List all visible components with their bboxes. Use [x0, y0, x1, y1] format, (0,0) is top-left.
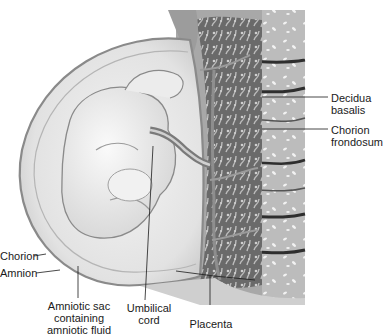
label-chorion-frondosum: Chorion frondosum	[331, 124, 383, 148]
label-placenta: Placenta	[184, 318, 238, 330]
label-umbilical-cord: Umbilical cord	[124, 302, 174, 326]
label-chorion: Chorion	[0, 250, 33, 262]
label-amniotic-sac: Amniotic sac containing amniotic fluid	[44, 300, 114, 336]
label-decidua-basalis: Decidua basalis	[331, 92, 371, 116]
label-amnion: Amnion	[0, 267, 35, 279]
